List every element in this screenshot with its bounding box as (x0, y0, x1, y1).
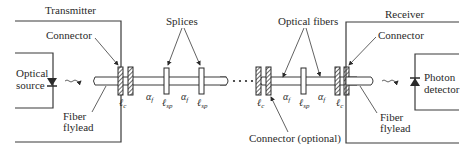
receiver-fiber-flylead (346, 77, 373, 85)
photon-detector-label-1: Photon (424, 71, 456, 83)
optical-source-label-2: source (16, 79, 45, 91)
continuation-dots-icon (233, 80, 253, 82)
transmitter-connector-label: Connector (46, 29, 92, 41)
optional-connector-pointer (271, 97, 288, 132)
receiver-block: Receiver Photon detector Connector Fiber… (346, 8, 460, 143)
transmitter-block: Transmitter Optical source Fiber flylead… (15, 4, 121, 142)
receiver-title: Receiver (385, 8, 424, 20)
splice-3 (301, 68, 306, 94)
receiver-connector-label: Connector (378, 29, 424, 41)
splice-1 (164, 68, 169, 94)
light-incoming-arrow-icon (382, 80, 398, 82)
splice-1-pointer (168, 28, 182, 65)
fiber-attenuation-1: αf (146, 91, 154, 104)
transmitter-title: Transmitter (45, 4, 96, 16)
optional-connector-loss: ℓc (257, 97, 265, 110)
splice-2 (199, 68, 204, 94)
splice-2-loss: ℓsp (197, 97, 208, 110)
transmitter-fiber-flylead (94, 77, 121, 85)
fiber-segment-1-end (220, 77, 228, 85)
receiver-connector-pointer (349, 37, 376, 65)
optical-fibers-label: Optical fibers (278, 15, 338, 27)
fiber-segment-1 (120, 77, 226, 85)
splice-3-loss: ℓsp (299, 97, 310, 110)
transmitter-flylead-label-2: flylead (63, 121, 94, 133)
transmitter-connector-half-1 (118, 67, 123, 95)
optional-connector-half-2 (266, 67, 271, 95)
photon-detector-label-2: detector (424, 83, 460, 95)
receiver-flylead-pointer (360, 86, 377, 113)
optical-source-label-1: Optical (16, 67, 48, 79)
splice-2-pointer (184, 28, 200, 65)
optical-fiber-pointer-2 (306, 28, 320, 76)
transmitter-connector-half-2 (128, 67, 133, 95)
receiver-flylead-label-2: flylead (380, 122, 411, 134)
receiver-connector-half-1 (335, 67, 340, 95)
fiber-attenuation-3: αf (283, 91, 291, 104)
led-diode-icon (47, 78, 57, 86)
optional-connector-label: Connector (optional) (249, 132, 341, 145)
fiber-link-diagram: Transmitter Optical source Fiber flylead… (0, 0, 472, 153)
fiber-attenuation-2: αf (181, 91, 189, 104)
splices-label: Splices (166, 15, 198, 27)
fiber-attenuation-4: αf (318, 91, 326, 104)
receiver-connector-loss: ℓc (336, 97, 344, 110)
fiber-link: ℓc αf ℓsp αf ℓsp Splices ℓc Connector (o… (118, 15, 357, 145)
light-emission-arrow-icon (65, 80, 81, 82)
splice-1-loss: ℓsp (162, 97, 173, 110)
fiber-segment-2 (260, 77, 357, 85)
transmitter-flylead-pointer (92, 86, 106, 112)
transmitter-connector-loss: ℓc (119, 97, 127, 110)
optional-connector-half-1 (256, 67, 261, 95)
photodiode-icon (410, 78, 420, 86)
transmitter-connector-pointer (95, 38, 118, 65)
